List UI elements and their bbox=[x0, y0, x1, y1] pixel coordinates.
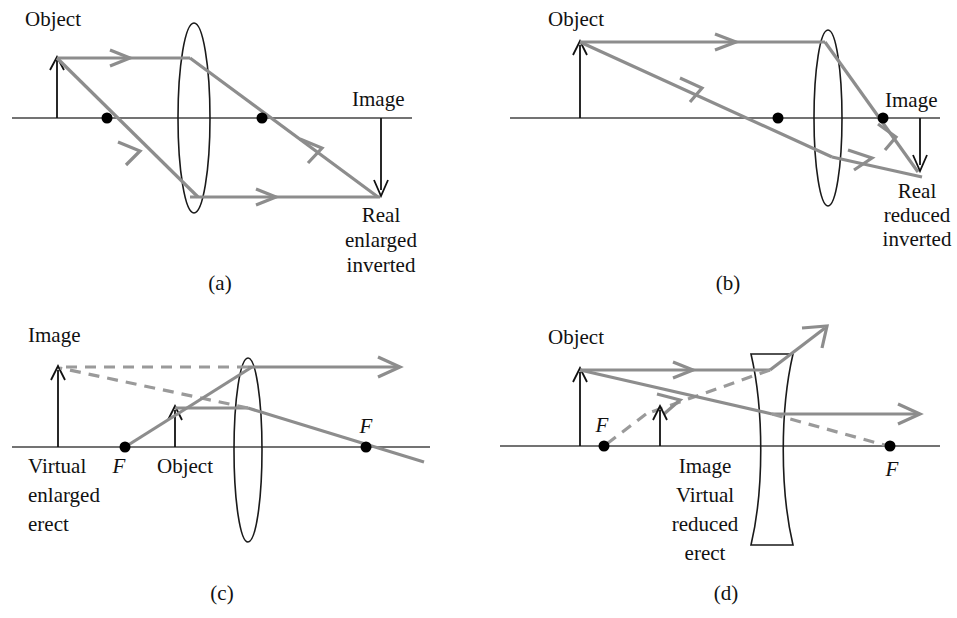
focal-label-near: F bbox=[595, 413, 609, 437]
object-label: Object bbox=[157, 454, 213, 478]
focal-point-dot-near bbox=[102, 113, 113, 124]
image-desc-line-2: enlarged bbox=[345, 228, 417, 252]
focal-label-far: F bbox=[359, 414, 373, 438]
focal-label-near: F bbox=[112, 454, 126, 478]
focal-point-dot-far bbox=[361, 442, 372, 453]
virtual-ray-extension-b bbox=[772, 414, 888, 446]
image-desc-line-1: Virtual bbox=[28, 454, 86, 478]
ray-through-focus-incident bbox=[57, 58, 198, 197]
ray-parallel-refracted bbox=[190, 58, 378, 197]
image-desc-line-3: erect bbox=[685, 541, 726, 565]
focal-point-dot-far bbox=[257, 113, 268, 124]
image-label: Image bbox=[28, 323, 80, 347]
panel-c: Image Virtual enlarged erect F Object F … bbox=[0, 310, 480, 618]
panel-letter-a: (a) bbox=[208, 271, 231, 295]
focal-point-dot-near bbox=[599, 441, 610, 452]
focal-point-dot-far bbox=[878, 113, 889, 124]
image-desc-line-1: Real bbox=[898, 179, 937, 203]
panel-letter-c: (c) bbox=[210, 581, 233, 605]
ray-through-focus-incident bbox=[580, 42, 832, 157]
focal-point-dot-near bbox=[773, 113, 784, 124]
panel-d: Object F F Image Virtual reduced erect (… bbox=[480, 310, 957, 618]
diverging-lens bbox=[751, 354, 793, 545]
panel-letter-d: (d) bbox=[714, 581, 739, 605]
ray-diverged-upward bbox=[770, 328, 825, 370]
focal-point-dot-near bbox=[120, 442, 131, 453]
image-desc-line-2: reduced bbox=[884, 203, 951, 227]
image-desc-line-1: Real bbox=[362, 203, 401, 227]
object-label: Object bbox=[548, 325, 604, 349]
image-desc-line-3: inverted bbox=[883, 227, 952, 251]
image-desc-line-2: enlarged bbox=[28, 483, 100, 507]
object-label: Object bbox=[25, 7, 81, 31]
image-desc-line-1: Virtual bbox=[676, 483, 734, 507]
ray-arrowhead bbox=[118, 142, 140, 165]
virtual-ray-extension-a bbox=[646, 370, 770, 414]
virtual-ray-extension-a2 bbox=[604, 414, 646, 446]
panel-a: Object Image Real enlarged inverted (a) bbox=[0, 0, 480, 310]
lens-ray-diagram-figure: Object Image Real enlarged inverted (a) … bbox=[0, 0, 957, 618]
image-label: Image bbox=[352, 87, 404, 111]
focal-point-dot-far bbox=[885, 441, 896, 452]
image-label: Image bbox=[679, 454, 731, 478]
panel-b: Object Image Real reduced inverted (b) bbox=[480, 0, 957, 310]
image-desc-line-2: reduced bbox=[672, 512, 739, 536]
panel-letter-b: (b) bbox=[716, 271, 741, 295]
image-desc-line-3: erect bbox=[28, 512, 69, 536]
focal-label-far: F bbox=[885, 457, 899, 481]
object-label: Object bbox=[548, 7, 604, 31]
converging-lens bbox=[234, 358, 262, 542]
image-label: Image bbox=[885, 88, 937, 112]
image-desc-line-3: inverted bbox=[347, 253, 416, 277]
ray-refracted-through-far-focus bbox=[248, 408, 424, 462]
